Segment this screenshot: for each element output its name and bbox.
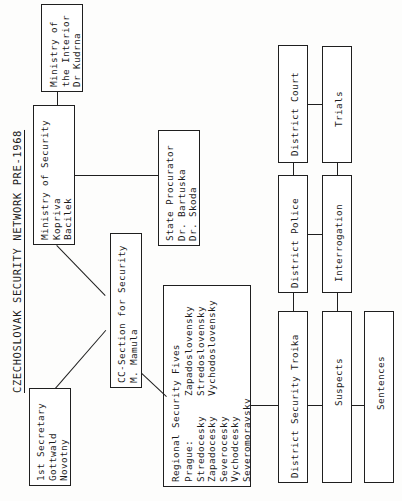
node-suspects[interactable]: Suspects bbox=[322, 311, 352, 483]
node-ministry-of-security[interactable]: Ministry of Security Kopriva Bacilek bbox=[33, 105, 75, 245]
connector-troika-to-suspects bbox=[308, 405, 322, 406]
connector-district-police-to-district-court bbox=[293, 163, 294, 175]
page-title: CZECHOSLOVAK SECURITY NETWORK PRE-1968 bbox=[8, 165, 26, 393]
connector-security-to-cc-section bbox=[56, 245, 105, 296]
node-regional-security-fives-column-2: Zapadoslovensky Stredoslovensky Vychodos… bbox=[183, 300, 218, 396]
connector-interior-to-security bbox=[57, 92, 58, 105]
node-first-secretary[interactable]: 1st Secretary Gottwald Novotny bbox=[29, 388, 71, 486]
node-district-security-troika-label: District Security Troika bbox=[289, 334, 301, 478]
org-chart-canvas: CZECHOSLOVAK SECURITY NETWORK PRE-1968 M… bbox=[0, 0, 402, 501]
node-cc-section-for-security[interactable]: CC-Section for Security M. Mamula bbox=[110, 233, 142, 388]
node-interrogation-label: Interrogation bbox=[333, 204, 345, 282]
node-district-police[interactable]: District Police bbox=[278, 175, 308, 293]
node-cc-section-for-security-label: CC-Section for Security M. Mamula bbox=[116, 245, 139, 383]
node-district-security-troika[interactable]: District Security Troika bbox=[278, 311, 308, 483]
node-interrogation[interactable]: Interrogation bbox=[322, 175, 352, 293]
node-district-court-label: District Court bbox=[289, 72, 301, 156]
node-trials-label: Trials bbox=[333, 91, 345, 127]
node-regional-security-fives[interactable]: Regional Security Fives Prague: Stredoce… bbox=[163, 285, 251, 487]
connector-district-court-to-trials bbox=[308, 104, 322, 105]
connector-suspects-to-sentences bbox=[352, 405, 364, 406]
node-trials[interactable]: Trials bbox=[322, 46, 352, 163]
node-sentences[interactable]: Sentences bbox=[364, 311, 394, 483]
node-state-procurator[interactable]: State Procurator Dr. Bartuska Dr. Skoda bbox=[158, 130, 200, 246]
connector-security-to-procurator bbox=[75, 175, 158, 176]
connector-regional-fives-to-troika bbox=[251, 405, 278, 406]
node-sentences-label: Sentences bbox=[375, 356, 387, 410]
node-regional-security-fives-column-1: Prague: Stredocesky Zapadocesky Severoce… bbox=[183, 398, 251, 482]
node-suspects-label: Suspects bbox=[333, 358, 345, 406]
connector-interrogation-to-suspects bbox=[337, 293, 338, 311]
node-ministry-of-security-label: Ministry of Security Kopriva Bacilek bbox=[39, 120, 74, 240]
connector-district-police-to-interrogation bbox=[308, 234, 322, 235]
node-first-secretary-label: 1st Secretary Gottwald Novotny bbox=[35, 403, 70, 481]
node-district-police-label: District Police bbox=[289, 198, 301, 288]
connector-trials-to-interrogation bbox=[337, 163, 338, 175]
node-state-procurator-label: State Procurator Dr. Bartuska Dr. Skoda bbox=[164, 145, 199, 241]
node-district-court[interactable]: District Court bbox=[278, 45, 308, 163]
connector-first-secretary-to-cc-section bbox=[55, 330, 106, 389]
node-ministry-of-the-interior-label: Ministry of the Interior Dr Kudrna bbox=[48, 15, 83, 87]
node-regional-security-fives-heading: Regional Security Fives bbox=[170, 344, 182, 482]
node-ministry-of-the-interior[interactable]: Ministry of the Interior Dr Kudrna bbox=[41, 4, 83, 92]
connector-troika-to-district-police bbox=[293, 293, 294, 311]
